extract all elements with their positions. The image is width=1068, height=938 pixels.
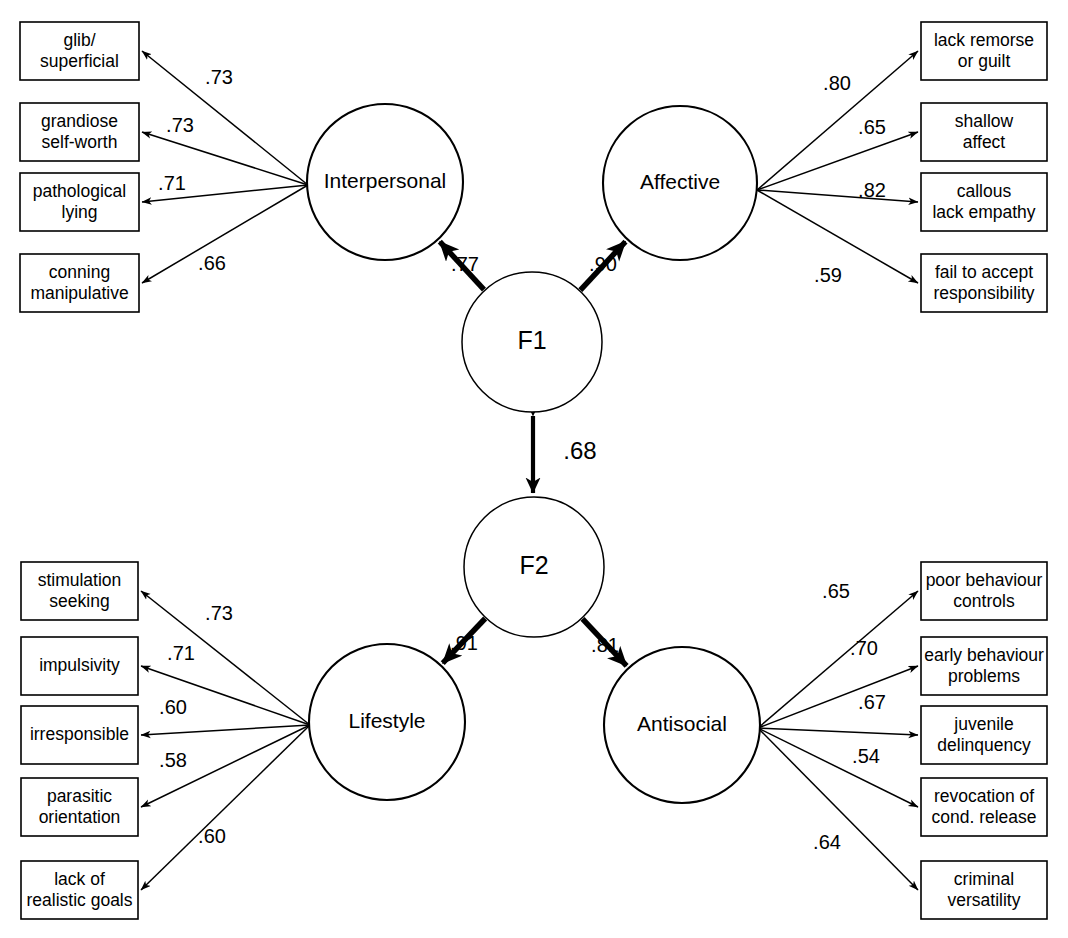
factor-correlation-value: .68 [563,437,596,464]
loading-value-lifestyle-2: .60 [159,696,187,718]
loading-value-interpersonal-3: .66 [198,252,226,274]
loading-arrow-antisocial-4 [758,728,918,890]
indicator-label: stimulationseeking [38,569,122,610]
indicator-label: fail to acceptresponsibility [933,261,1034,302]
indicator-label: parasiticorientation [39,785,121,826]
indicator-label: grandioseself-worth [41,110,118,151]
loading-value-lifestyle-3: .58 [159,749,187,771]
loading-value-antisocial-0: .65 [822,580,850,602]
latent-label-affective: Affective [640,170,720,193]
indicator-label: revocation ofcond. release [931,785,1036,826]
structural-value-affective: .90 [589,253,617,275]
factor-label-f2: F2 [519,551,548,579]
loading-arrow-antisocial-2 [758,728,918,735]
indicator-label: impulsivity [39,655,120,675]
loading-value-interpersonal-0: .73 [205,66,233,88]
loading-value-antisocial-2: .67 [858,691,886,713]
loading-arrow-affective-2 [757,190,918,202]
text-layer: glib/superficial.73grandioseself-worth.7… [26,29,1044,909]
loading-value-lifestyle-4: .60 [198,825,226,847]
sem-diagram: glib/superficial.73grandioseself-worth.7… [0,0,1068,938]
latent-label-lifestyle: Lifestyle [348,709,425,732]
loading-value-antisocial-3: .54 [852,745,880,767]
structural-value-interpersonal: .77 [451,253,479,275]
structural-value-lifestyle: .91 [450,632,478,654]
indicator-label: criminalversatility [948,868,1021,909]
loading-value-lifestyle-1: .71 [167,642,195,664]
sem-canvas: glib/superficial.73grandioseself-worth.7… [0,0,1068,938]
loading-arrow-antisocial-0 [758,591,918,728]
indicator-label: irresponsible [30,724,129,744]
loading-value-affective-3: .59 [814,264,842,286]
loading-arrow-affective-1 [757,132,918,190]
loading-value-interpersonal-1: .73 [166,114,194,136]
loading-arrow-antisocial-3 [758,728,918,807]
indicator-label: shallowaffect [955,110,1014,151]
loading-arrow-antisocial-1 [758,666,918,728]
loading-value-antisocial-4: .64 [813,831,841,853]
loading-value-interpersonal-2: .71 [158,172,186,194]
loading-arrow-lifestyle-2 [141,725,310,735]
factor-label-f1: F1 [517,326,546,354]
loading-value-affective-2: .82 [858,179,886,201]
loading-value-affective-1: .65 [858,116,886,138]
latent-label-interpersonal: Interpersonal [324,169,447,192]
latent-label-antisocial: Antisocial [637,712,727,735]
structural-value-antisocial: .81 [591,634,619,656]
path-layer [141,51,918,890]
loading-value-affective-0: .80 [823,72,851,94]
loading-value-lifestyle-0: .73 [205,602,233,624]
loading-value-antisocial-1: .70 [850,637,878,659]
